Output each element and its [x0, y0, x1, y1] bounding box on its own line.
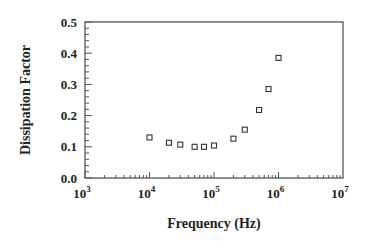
x-tick-exponent: 3: [86, 184, 91, 194]
data-point: [166, 140, 171, 145]
x-ticks: [85, 172, 340, 178]
x-tick-base: 10: [331, 186, 344, 201]
data-point: [178, 142, 183, 147]
y-tick-label: 0.4: [61, 46, 78, 61]
data-point: [242, 127, 247, 132]
x-tick-label: 107: [331, 184, 349, 201]
data-point: [192, 144, 197, 149]
x-tick-base: 10: [267, 186, 280, 201]
x-tick-exponent: 4: [151, 184, 156, 194]
data-point: [202, 144, 207, 149]
y-tick-label: 0.5: [61, 15, 78, 30]
x-tick-exponent: 6: [280, 184, 285, 194]
x-tick-label: 105: [202, 184, 220, 201]
y-tick-label: 0.3: [61, 77, 78, 92]
plot-frame: [85, 22, 343, 178]
x-tick-base: 10: [202, 186, 215, 201]
x-tick-label: 103: [73, 184, 91, 201]
data-point: [276, 55, 281, 60]
y-tick-label: 0.1: [61, 139, 77, 154]
x-tick-label: 106: [267, 184, 285, 201]
x-axis-title: Frequency (Hz): [167, 216, 261, 232]
x-tick-base: 10: [138, 186, 151, 201]
data-point: [266, 87, 271, 92]
y-tick-labels: 0.00.10.20.30.40.5: [61, 15, 78, 186]
y-tick-label: 0.2: [61, 108, 77, 123]
chart: 0.00.10.20.30.40.5 103104105106107 Frequ…: [0, 0, 365, 247]
data-point: [147, 135, 152, 140]
plot-frame-group: [85, 22, 343, 178]
y-ticks: [85, 22, 92, 178]
data-point: [257, 107, 262, 112]
x-tick-labels: 103104105106107: [73, 184, 349, 201]
data-point: [212, 143, 217, 148]
x-tick-exponent: 5: [215, 184, 220, 194]
y-axis-title: Dissipation Factor: [18, 45, 33, 155]
data-point: [231, 136, 236, 141]
x-tick-label: 104: [138, 184, 156, 201]
x-tick-exponent: 7: [344, 184, 349, 194]
y-tick-label: 0.0: [61, 171, 77, 186]
x-tick-base: 10: [73, 186, 86, 201]
data-points: [147, 55, 281, 149]
